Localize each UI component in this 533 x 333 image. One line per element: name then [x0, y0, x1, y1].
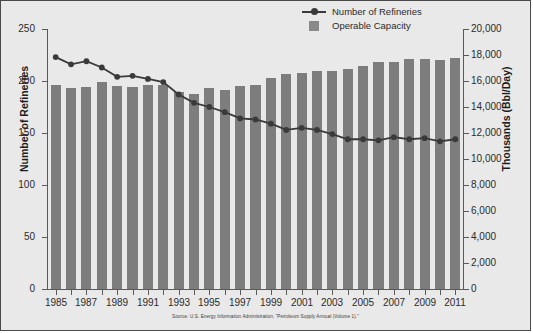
- x-tick-1989: [117, 290, 118, 295]
- legend-marker-dot: [311, 8, 318, 15]
- y-right-tick-14,000: [464, 107, 469, 108]
- x-tick-2004: [348, 290, 349, 295]
- y-right-tick-12,000: [464, 133, 469, 134]
- data-point-1986: [68, 61, 74, 67]
- data-point-2005: [360, 136, 366, 142]
- data-point-1992: [160, 79, 166, 85]
- y-right-label-4,000: 4,000: [471, 232, 515, 242]
- data-point-1998: [253, 117, 259, 123]
- y-axis-left-line: [47, 29, 48, 290]
- y-axis-left-title: Number of Refineries: [18, 44, 30, 194]
- x-tick-2000: [286, 290, 287, 295]
- x-tick-1985: [56, 290, 57, 295]
- y-left-label-250: 250: [1, 24, 35, 34]
- chart-figure: Number of Refineries Operable Capacity 0…: [0, 0, 531, 331]
- data-point-2003: [329, 131, 335, 137]
- y-left-label-50: 50: [1, 232, 35, 242]
- y-left-tick-250: [42, 29, 47, 30]
- y-right-label-6,000: 6,000: [471, 206, 515, 216]
- line-marker-key: [301, 6, 327, 17]
- y-right-label-0: 0: [471, 284, 515, 294]
- data-point-2011: [452, 136, 458, 142]
- y-left-label-0: 0: [1, 284, 35, 294]
- line-series-refineries: [48, 29, 463, 289]
- x-tick-1999: [271, 290, 272, 295]
- data-point-1997: [237, 116, 243, 122]
- y-right-tick-6,000: [464, 211, 469, 212]
- plot-area: [48, 29, 463, 289]
- x-tick-2002: [317, 290, 318, 295]
- x-tick-1986: [71, 290, 72, 295]
- x-tick-1991: [148, 290, 149, 295]
- data-point-1999: [268, 121, 274, 127]
- x-tick-1987: [86, 290, 87, 295]
- data-point-2010: [437, 138, 443, 144]
- x-tick-2008: [409, 290, 410, 295]
- x-tick-2005: [363, 290, 364, 295]
- x-tick-1990: [133, 290, 134, 295]
- x-tick-2010: [440, 290, 441, 295]
- legend-label-refineries: Number of Refineries: [332, 6, 422, 17]
- x-tick-1995: [209, 290, 210, 295]
- x-tick-2009: [425, 290, 426, 295]
- y-right-tick-8,000: [464, 185, 469, 186]
- data-point-1987: [84, 58, 90, 64]
- y-left-tick-150: [42, 133, 47, 134]
- data-point-2002: [314, 127, 320, 133]
- x-tick-2001: [302, 290, 303, 295]
- x-tick-1994: [194, 290, 195, 295]
- x-tick-1992: [163, 290, 164, 295]
- y-right-tick-2,000: [464, 263, 469, 264]
- y-right-tick-16,000: [464, 81, 469, 82]
- data-point-1988: [99, 65, 105, 71]
- data-point-2007: [391, 134, 397, 140]
- data-point-1995: [206, 104, 212, 110]
- x-tick-2006: [378, 290, 379, 295]
- x-tick-1988: [102, 290, 103, 295]
- data-point-2001: [299, 125, 305, 131]
- y-left-tick-0: [42, 289, 47, 290]
- y-left-tick-100: [42, 185, 47, 186]
- data-point-1993: [176, 92, 182, 98]
- data-point-1994: [191, 100, 197, 106]
- y-left-tick-200: [42, 81, 47, 82]
- y-right-label-20,000: 20,000: [471, 24, 515, 34]
- x-label-2011: 2011: [435, 297, 475, 308]
- data-point-1996: [222, 109, 228, 115]
- x-tick-1997: [240, 290, 241, 295]
- y-right-tick-18,000: [464, 55, 469, 56]
- data-point-2008: [406, 136, 412, 142]
- y-right-label-2,000: 2,000: [471, 258, 515, 268]
- x-tick-1993: [179, 290, 180, 295]
- y-right-tick-10,000: [464, 159, 469, 160]
- legend-item-refineries: Number of Refineries: [301, 5, 481, 18]
- data-point-2006: [376, 137, 382, 143]
- y-right-tick-4,000: [464, 237, 469, 238]
- data-point-1989: [114, 74, 120, 80]
- y-right-tick-0: [464, 289, 469, 290]
- data-point-2009: [422, 135, 428, 141]
- x-tick-1998: [256, 290, 257, 295]
- y-right-tick-20,000: [464, 29, 469, 30]
- data-point-1991: [145, 76, 151, 82]
- x-tick-1996: [225, 290, 226, 295]
- y-left-tick-50: [42, 237, 47, 238]
- refineries-line-path: [56, 57, 456, 141]
- x-tick-2003: [332, 290, 333, 295]
- x-tick-2007: [394, 290, 395, 295]
- x-tick-2011: [455, 290, 456, 295]
- data-point-1985: [53, 54, 59, 60]
- y-axis-right-title: Thousands (Bbl/Day): [500, 44, 512, 194]
- data-point-2000: [283, 127, 289, 133]
- data-point-2004: [345, 136, 351, 142]
- source-note: Source: U.S. Energy Information Administ…: [1, 314, 530, 319]
- data-point-1990: [130, 73, 136, 79]
